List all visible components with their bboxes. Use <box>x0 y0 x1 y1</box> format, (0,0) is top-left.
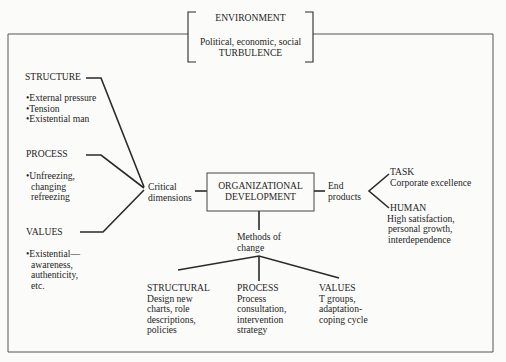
process-method-block: PROCESS Process consultation, interventi… <box>237 283 286 336</box>
structure-items: •External pressure •Tension •Existential… <box>26 93 96 125</box>
end-label-line2: products <box>328 192 361 203</box>
methods-of-change-label: Methods of change <box>237 232 281 253</box>
values-item: •Existential— <box>26 249 80 260</box>
critical-label-line2: dimensions <box>148 193 192 204</box>
end-products-label: End products <box>328 181 361 202</box>
task-block: TASK Corporate excellence <box>390 167 471 188</box>
values-method-line: coping cycle <box>319 315 368 326</box>
structure-item: •Existential man <box>26 114 96 125</box>
process-item: •Unfreezing, <box>26 171 75 182</box>
process-method-title: PROCESS <box>237 283 286 294</box>
methods-line2: change <box>237 243 281 254</box>
critical-dimensions-label: Critical dimensions <box>148 182 192 203</box>
organizational-development-box: ORGANIZATIONAL DEVELOPMENT <box>207 181 314 202</box>
structure-title: STRUCTURE <box>25 72 81 83</box>
structural-title: STRUCTURAL <box>147 283 210 294</box>
od-line1: ORGANIZATIONAL <box>207 181 314 192</box>
human-block: HUMAN High satisfaction, personal growth… <box>387 203 455 245</box>
environment-title: ENVIRONMENT <box>196 13 305 24</box>
od-line2: DEVELOPMENT <box>207 192 314 203</box>
methods-line1: Methods of <box>237 232 281 243</box>
values-item: etc. <box>26 281 80 292</box>
process-items: •Unfreezing, changing refreezing <box>26 171 75 203</box>
structural-method-block: STRUCTURAL Design new charts, role descr… <box>147 283 210 336</box>
values-method-block: VALUES T groups, adaptation- coping cycl… <box>319 283 368 325</box>
values-items: •Existential— awareness, authenticity, e… <box>26 249 80 291</box>
human-title: HUMAN <box>387 203 455 214</box>
environment-subtitle: Political, economic, social <box>190 37 311 48</box>
values-title: VALUES <box>26 227 63 238</box>
task-line: Corporate excellence <box>390 178 471 189</box>
task-title: TASK <box>390 167 471 178</box>
process-title: PROCESS <box>26 149 68 160</box>
values-method-title: VALUES <box>319 283 368 294</box>
human-line: interdependence <box>387 235 455 246</box>
process-method-line: strategy <box>237 325 286 336</box>
critical-label-line1: Critical <box>148 182 192 193</box>
structure-item: •External pressure <box>26 93 96 104</box>
structural-line: policies <box>147 325 210 336</box>
end-label-line1: End <box>328 181 361 192</box>
process-item: refreezing <box>26 192 75 203</box>
environment-turbulence: TURBULENCE <box>190 48 311 59</box>
